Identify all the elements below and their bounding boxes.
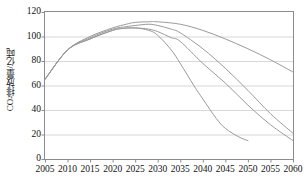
y-tick-label: 40 (17, 105, 41, 115)
y-tick-label: 120 (17, 7, 41, 17)
data-series-group (45, 22, 293, 141)
co2-emissions-line-chart: CO2排放量/亿吨 020406080100120 20052010201520… (0, 0, 307, 177)
plot-area (0, 0, 307, 177)
axis-tick-marks (42, 13, 294, 163)
grid-lines (45, 37, 293, 135)
y-tick-label: 60 (17, 81, 41, 91)
y-tick-label: 20 (17, 130, 41, 140)
y-tick-label: 80 (17, 56, 41, 66)
y-tick-label: 0 (17, 154, 41, 164)
x-tick-label: 2060 (276, 164, 307, 174)
series-line-scenario-b-steep (45, 28, 293, 141)
y-tick-label: 100 (17, 32, 41, 42)
series-line-scenario-d-shallow (45, 22, 293, 80)
